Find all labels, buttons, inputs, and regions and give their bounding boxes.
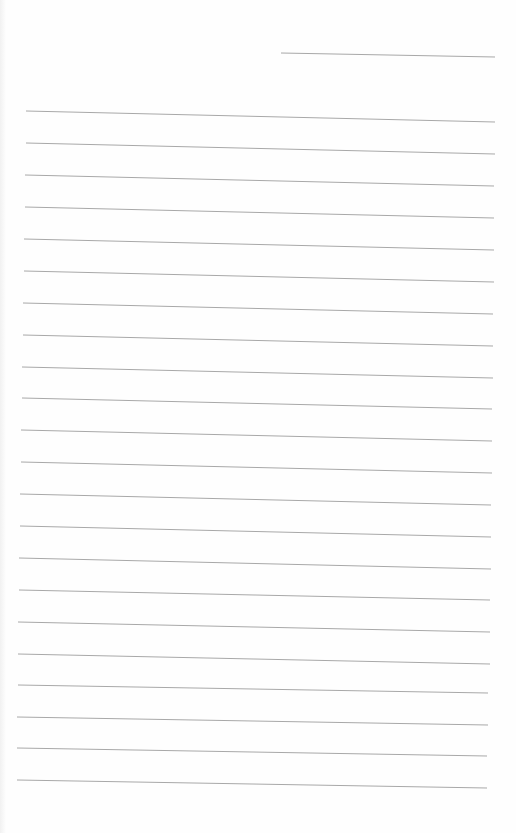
ruled-line xyxy=(17,717,488,725)
ruled-line xyxy=(18,654,490,664)
ruled-line xyxy=(23,335,493,346)
ruled-line xyxy=(19,590,490,600)
ruled-line xyxy=(17,748,487,756)
ruled-line xyxy=(24,239,494,250)
ruled-line xyxy=(24,271,494,282)
lined-paper-page xyxy=(0,0,516,833)
ruled-line xyxy=(26,111,495,122)
ruled-line xyxy=(22,398,492,409)
ruled-line xyxy=(20,526,491,537)
ruled-line xyxy=(23,303,493,314)
ruled-line xyxy=(20,494,491,505)
ruled-lines xyxy=(0,0,516,833)
ruled-line xyxy=(25,175,494,186)
header-line xyxy=(281,53,495,57)
ruled-line xyxy=(18,622,490,632)
ruled-line xyxy=(19,558,491,569)
ruled-line xyxy=(25,207,494,218)
ruled-line xyxy=(21,430,492,441)
ruled-line xyxy=(22,367,493,378)
ruled-line xyxy=(26,143,495,154)
ruled-line xyxy=(21,462,492,473)
ruled-line xyxy=(18,685,488,693)
ruled-line xyxy=(17,780,487,788)
